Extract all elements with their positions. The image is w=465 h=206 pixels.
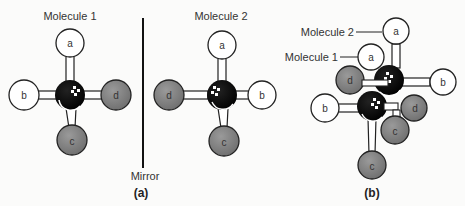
atom-c-label: c — [370, 161, 375, 172]
carbon-atom — [55, 80, 85, 110]
atom-d-label: d — [113, 90, 119, 101]
bond-d — [362, 80, 388, 86]
atom-c-label: c — [393, 126, 398, 137]
atom-b-label: b — [440, 77, 446, 88]
molecule-1: Molecule 1 a b d c — [9, 10, 131, 155]
atom-a-label: a — [368, 52, 374, 63]
mirror-label: Mirror — [131, 170, 160, 182]
bond-d — [182, 91, 208, 99]
atom-a-label: a — [67, 38, 73, 49]
bond-c — [368, 118, 376, 154]
panel-b-caption: (b) — [364, 186, 379, 200]
molecule-1-overlay-label: Molecule 1 — [285, 51, 338, 63]
bond-c — [218, 108, 228, 128]
atom-a-label: a — [393, 26, 399, 37]
atom-d-label: d — [347, 75, 353, 86]
atom-a-label: a — [219, 40, 225, 51]
molecule-1-label: Molecule 1 — [43, 10, 96, 22]
molecule-1-overlay: Molecule 1 a d b c c — [285, 44, 409, 179]
molecule-2-overlay-label: Molecule 2 — [301, 26, 354, 38]
atom-b-label: b — [259, 90, 265, 101]
bond-m1-d — [384, 103, 398, 110]
bond-a — [392, 44, 400, 68]
atom-b-label: b — [21, 90, 27, 101]
bond-a — [218, 57, 226, 83]
enantiomer-figure: Molecule 1 a b d c Mirror (a) Molecule 2 — [0, 0, 465, 206]
bond-b — [402, 78, 430, 86]
atom-d-label: d — [412, 103, 418, 114]
superimposed-molecules: Molecule 2 b a d Molecule 1 a d — [285, 18, 456, 200]
molecule-2: Molecule 2 a d b c — [154, 10, 276, 156]
bond-a — [66, 55, 74, 83]
atom-d-label: d — [166, 90, 172, 101]
atom-c-label: c — [222, 137, 227, 148]
molecule-2-label: Molecule 2 — [194, 10, 247, 22]
panel-a-caption: (a) — [134, 186, 149, 200]
atom-c-label: c — [70, 136, 75, 147]
atom-b-label: b — [322, 103, 328, 114]
